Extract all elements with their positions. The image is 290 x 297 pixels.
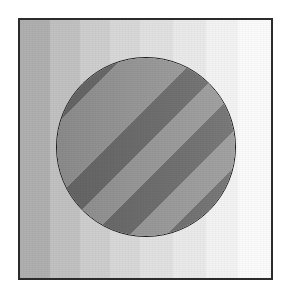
- figure-canvas: [0, 0, 290, 297]
- image-border: [18, 18, 273, 280]
- striped-circle: [56, 57, 236, 237]
- stripe-1: [20, 20, 50, 278]
- stripe-8: [238, 20, 271, 278]
- circle-diagonal-stripe-fill: [56, 57, 236, 237]
